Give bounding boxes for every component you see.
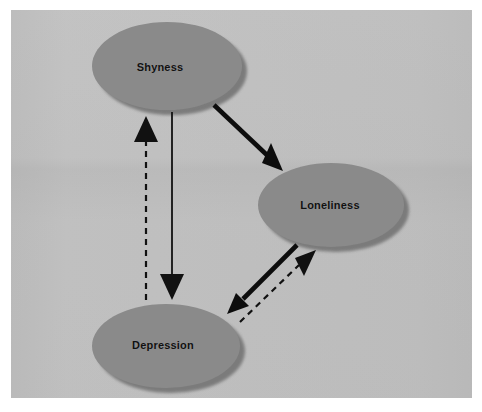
edge-line-thick bbox=[214, 105, 268, 156]
loneliness-ellipse[interactable] bbox=[258, 163, 404, 247]
arrowhead-up-right-icon bbox=[295, 250, 316, 276]
edge-shyness-to-loneliness[interactable] bbox=[214, 105, 283, 171]
edge-line-thick bbox=[243, 245, 297, 299]
shyness-ellipse[interactable] bbox=[92, 22, 242, 110]
diagram-canvas bbox=[0, 0, 482, 412]
arrowhead-up-icon bbox=[134, 116, 158, 142]
depression-ellipse[interactable] bbox=[92, 304, 240, 388]
node-layer bbox=[92, 22, 404, 388]
edge-loneliness-to-depression[interactable] bbox=[227, 245, 297, 314]
arrowhead-down-right-icon bbox=[262, 143, 283, 171]
arrowhead-down-icon bbox=[160, 274, 184, 300]
diagram-figure: Shyness Loneliness Depression bbox=[0, 0, 482, 412]
edge-depression-to-shyness[interactable] bbox=[134, 116, 158, 300]
edge-shyness-to-depression[interactable] bbox=[160, 112, 184, 300]
